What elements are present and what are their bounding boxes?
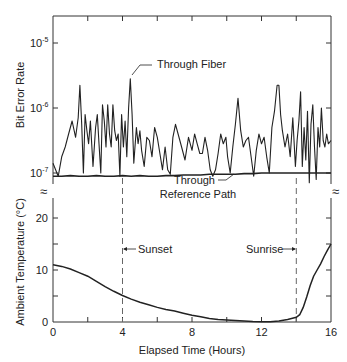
reference-annotation-line1: Through bbox=[174, 174, 215, 186]
ber-tick-label: 10-7 bbox=[30, 166, 49, 179]
temp-y-axis-label: Ambient Temperature (°C) bbox=[14, 198, 26, 326]
ber-temperature-chart: 048121610-510-610-701020 ≈ ≈ Bit Error R… bbox=[0, 0, 347, 362]
x-tick-label: 12 bbox=[255, 326, 267, 338]
ber-y-axis-label: Bit Error Rate bbox=[14, 62, 26, 129]
x-tick-label: 16 bbox=[325, 326, 337, 338]
x-tick-label: 8 bbox=[189, 326, 195, 338]
temperature-series bbox=[53, 244, 331, 322]
ber-tick-label: 10-6 bbox=[30, 101, 49, 114]
sunset-arrowhead-icon bbox=[123, 247, 127, 251]
ber-tick-label: 10-5 bbox=[30, 36, 49, 49]
tick-labels: 048121610-510-610-701020 bbox=[30, 36, 337, 338]
sunrise-annotation: Sunrise bbox=[246, 243, 283, 255]
x-tick-label: 4 bbox=[119, 326, 125, 338]
axis-break-right-icon: ≈ bbox=[332, 184, 339, 199]
x-axis-label: Elapsed Time (Hours) bbox=[139, 344, 245, 356]
temp-tick-label: 20 bbox=[36, 212, 48, 224]
x-tick-label: 0 bbox=[50, 326, 56, 338]
fiber-leader bbox=[132, 65, 152, 75]
fiber-annotation: Through Fiber bbox=[157, 58, 226, 70]
temp-tick-label: 0 bbox=[42, 316, 48, 328]
y-axis-ticks bbox=[53, 43, 331, 296]
sunset-annotation: Sunset bbox=[138, 243, 172, 255]
fiber-series bbox=[53, 79, 331, 183]
sunrise-arrowhead-icon bbox=[292, 247, 296, 251]
axis-break-left-icon: ≈ bbox=[40, 184, 47, 199]
reference-annotation-line2: Reference Path bbox=[160, 188, 236, 200]
temp-tick-label: 10 bbox=[36, 264, 48, 276]
